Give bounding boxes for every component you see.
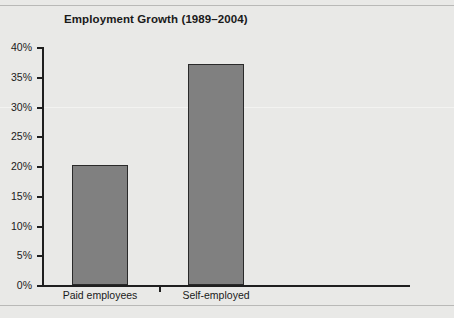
y-tick-label: 25%: [0, 130, 32, 142]
y-tick-label: 15%: [0, 190, 32, 202]
y-tick-label: 40%: [0, 41, 32, 53]
y-tick-label: 20%: [0, 160, 32, 172]
y-axis-tick: [37, 77, 42, 79]
x-axis-category-tick: [159, 287, 161, 292]
chart-figure: Employment Growth (1989–2004) 40% 35% 30…: [0, 0, 454, 318]
y-axis-tick: [37, 107, 42, 109]
y-axis-tick: [37, 255, 42, 257]
y-axis-tick: [37, 166, 42, 168]
plot-area: [42, 47, 410, 285]
y-tick-label: 5%: [0, 249, 32, 261]
x-tick-label-paid-employees: Paid employees: [63, 289, 138, 301]
y-tick-label: 30%: [0, 101, 32, 113]
y-axis-labels: 40% 35% 30% 25% 20% 15% 10% 5% 0%: [0, 47, 38, 287]
page-rule-top: [0, 5, 454, 6]
page-rule-bottom: [0, 305, 454, 306]
y-tick-label: 0%: [0, 279, 32, 291]
y-axis-tick: [37, 47, 42, 49]
y-tick-label: 35%: [0, 71, 32, 83]
x-axis-line: [42, 285, 410, 287]
y-tick-label: 10%: [0, 220, 32, 232]
y-axis-tick: [37, 196, 42, 198]
y-axis-tick: [37, 136, 42, 138]
x-tick-label-self-employed: Self-employed: [182, 289, 249, 301]
y-axis-tick: [37, 285, 42, 287]
y-axis-line: [42, 47, 44, 286]
bar-paid-employees[interactable]: [72, 165, 128, 285]
chart-title: Employment Growth (1989–2004): [64, 13, 248, 25]
bar-self-employed[interactable]: [188, 64, 244, 285]
y-axis-tick: [37, 226, 42, 228]
